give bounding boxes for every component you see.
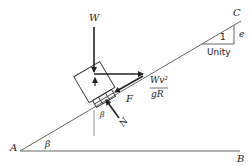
friction-arrow xyxy=(115,76,143,92)
point-c-label: C xyxy=(233,8,241,18)
vehicle-box xyxy=(74,62,119,110)
incline-angle-label: β xyxy=(45,140,50,149)
point-b-label: B xyxy=(237,154,244,164)
incline-line-ac xyxy=(20,21,241,151)
rise-e-label: e xyxy=(239,30,244,39)
triangle-one-label: 1 xyxy=(220,33,226,42)
friction-label: F xyxy=(126,94,133,104)
normal-angle-label: β xyxy=(100,111,105,119)
point-a-label: A xyxy=(10,143,17,153)
banked-curve-diagram: W Wv² gR F N β β A B C e 1 Unity xyxy=(0,0,252,166)
centrifugal-denominator: gR xyxy=(151,90,164,99)
weight-label: W xyxy=(89,13,99,23)
centrifugal-numerator: Wv² xyxy=(150,76,168,85)
normal-arrow xyxy=(106,100,119,118)
diagram-graphics xyxy=(0,0,252,166)
unity-label: Unity xyxy=(207,48,231,57)
